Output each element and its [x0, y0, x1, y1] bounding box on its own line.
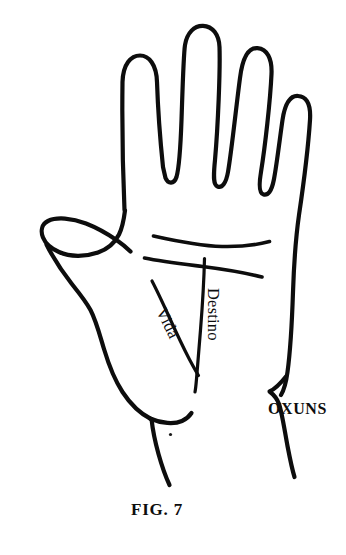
label-oxuns: OXUNS [268, 400, 327, 417]
thumb-upper-edge-path [42, 211, 131, 256]
figure-caption: FIG. 7 [131, 500, 183, 519]
hand-diagram: Vida Destino OXUNS FIG. 7 [0, 0, 346, 555]
figure-container: Vida Destino OXUNS FIG. 7 [0, 0, 346, 555]
heart-line-path [154, 236, 270, 247]
labels-group: Vida Destino OXUNS FIG. 7 [131, 288, 327, 519]
thumb-lower-outer-edge-path [47, 245, 152, 420]
palm-heel-curve-path [150, 413, 192, 423]
wrist-left-edge-path [152, 419, 170, 485]
label-destino: Destino [204, 288, 223, 341]
ink-speck [169, 433, 172, 436]
